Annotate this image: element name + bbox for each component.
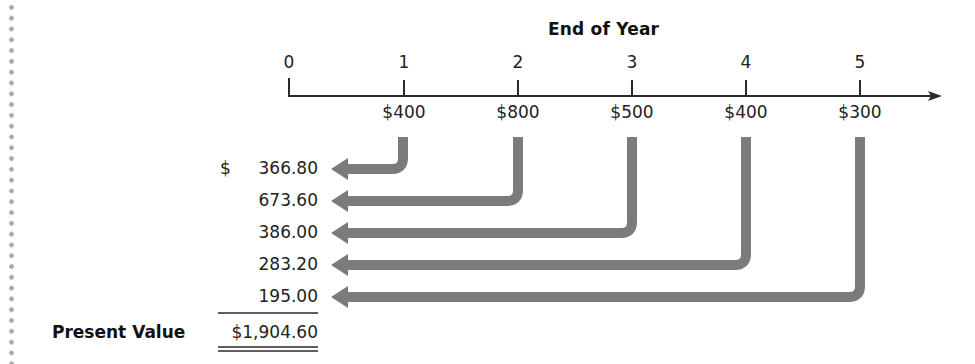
- discount-arrow-year-5: [345, 137, 860, 297]
- year-label-5: 5: [855, 52, 866, 72]
- discount-arrow-year-3: [345, 137, 632, 233]
- arrowhead-left-icon: [331, 190, 348, 212]
- year-label-3: 3: [627, 52, 638, 72]
- cash-flow-year-3: $500: [610, 102, 653, 122]
- arrowhead-left-icon: [331, 222, 348, 244]
- present-value-total: $1,904.60: [198, 322, 318, 342]
- cash-flow-year-2: $800: [496, 102, 539, 122]
- diagram-title: End of Year: [548, 19, 659, 39]
- year-label-2: 2: [513, 52, 524, 72]
- cash-flow-year-4: $400: [724, 102, 767, 122]
- cash-flow-year-5: $300: [838, 102, 881, 122]
- year-label-4: 4: [741, 52, 752, 72]
- arrowhead-left-icon: [331, 254, 348, 276]
- arrowhead-left-icon: [331, 158, 348, 180]
- present-value-year-5: 195.00: [198, 286, 318, 306]
- timeline-axis: [289, 78, 932, 97]
- year-label-1: 1: [399, 52, 410, 72]
- year-label-0: 0: [284, 52, 295, 72]
- discount-arrow-year-1: [345, 137, 403, 169]
- cash-flow-year-1: $400: [382, 102, 425, 122]
- present-value-year-4: 283.20: [198, 254, 318, 274]
- arrowhead-left-icon: [331, 286, 348, 308]
- present-value-year-3: 386.00: [198, 222, 318, 242]
- timeline-diagram: [0, 0, 975, 364]
- present-value-year-2: 673.60: [198, 190, 318, 210]
- present-value-label: Present Value: [52, 322, 185, 342]
- present-value-year-1: 366.80: [198, 158, 318, 178]
